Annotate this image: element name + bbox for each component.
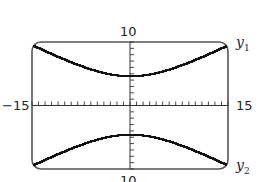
graph-figure: 10 −15 15 10 y1 y2 <box>0 0 260 182</box>
series-label-y2: y2 <box>236 158 250 176</box>
y-max-label: 10 <box>120 25 137 38</box>
x-min-label: −15 <box>2 99 29 112</box>
series-label-y1: y1 <box>236 35 250 53</box>
x-max-label: 15 <box>236 99 253 112</box>
y-min-label: 10 <box>120 174 137 182</box>
